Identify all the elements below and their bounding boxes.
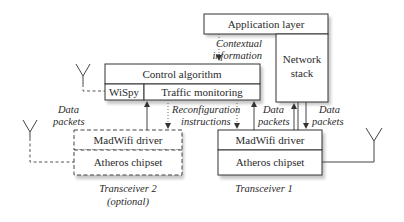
t1-antenna-icon [366,128,382,162]
data-packets-mid-line2: packets [257,116,290,127]
reconfiguration-instructions-line2: instructions [181,116,231,127]
data-packets-left-line1: Data [57,104,79,115]
wispy-label: WiSpy [109,86,140,98]
t1-madwifi-driver-label: MadWifi driver [236,134,305,146]
data-packets-left-line2: packets [52,116,85,127]
control-algorithm-block: Control algorithm WiSpy Traffic monitori… [105,64,263,104]
network-stack-box: Network stack [276,34,328,102]
network-stack-label-line1: Network [283,53,322,65]
contextual-information-label-line2: information [212,50,262,61]
t2-antenna-link [30,138,74,162]
control-algorithm-label: Control algorithm [142,68,222,80]
t2-caption-line2: (optional) [107,196,149,208]
data-packets-mid-line1: Data [262,104,284,115]
data-packets-right-line2: packets [311,116,344,127]
t1-caption: Transceiver 1 [235,183,292,194]
data-packets-right-line1: Data [318,104,340,115]
traffic-monitoring-label: Traffic monitoring [161,86,243,98]
contextual-information-label-line1: Contextual [216,38,262,49]
t2-madwifi-driver-label: MadWifi driver [94,134,163,146]
t2-caption-line1: Transceiver 2 [99,183,157,194]
t2-atheros-chipset-label: Atheros chipset [94,156,163,168]
transceiver-1: MadWifi driver Atheros chipset Transceiv… [218,130,325,194]
t1-atheros-chipset-label: Atheros chipset [236,156,305,168]
wispy-antenna-icon [76,64,90,84]
application-layer-label: Application layer [228,18,305,30]
t2-antenna-icon [23,120,37,138]
wispy-antenna-link [83,84,105,91]
network-stack-label-line2: stack [291,67,314,79]
reconfiguration-instructions-line1: Reconfiguration [171,104,240,115]
transceiver-2: MadWifi driver Atheros chipset Transceiv… [74,130,184,208]
system-architecture-diagram: Application layer Network stack Contextu… [0,0,404,222]
